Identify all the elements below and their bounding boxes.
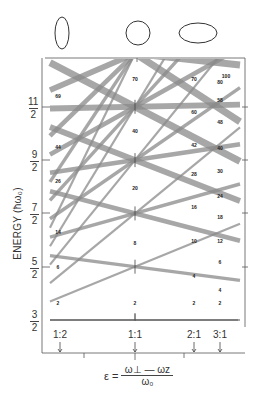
- formula-lhs: ε =: [104, 370, 118, 382]
- formula-denominator: ω₀: [141, 376, 153, 387]
- y-tick-7-2: 7 2: [30, 203, 39, 226]
- degeneracy-label: 14: [55, 229, 61, 235]
- degeneracy-label: 10: [191, 238, 197, 244]
- y-tick-numerator: 7: [32, 203, 38, 213]
- energy-level-diagram: [0, 0, 260, 400]
- energy-level-line: [50, 8, 240, 90]
- degeneracy-label: 44: [55, 144, 61, 150]
- degeneracy-label: 24: [217, 193, 223, 199]
- y-tick-3-2: 3 2: [30, 310, 39, 333]
- y-tick-9-2: 9 2: [30, 150, 39, 173]
- degeneracy-label: 2: [193, 300, 196, 306]
- y-tick-denominator: 2: [32, 270, 38, 280]
- degeneracy-label: 100: [222, 73, 230, 79]
- y-tick-11-2: 11 2: [28, 97, 38, 120]
- degeneracy-label: 4: [193, 273, 196, 279]
- degeneracy-label: 2: [134, 300, 137, 306]
- degeneracy-label: 70: [132, 76, 138, 82]
- y-tick-5-2: 5 2: [30, 257, 39, 280]
- degeneracy-label: 2: [57, 300, 60, 306]
- degeneracy-label: 28: [191, 171, 197, 177]
- ratio-arrow-icon: [218, 342, 222, 352]
- ratio-label-1-2: 1:2: [53, 329, 67, 340]
- ratio-label-3-1: 3:1: [213, 329, 227, 340]
- x-axis-formula: ε = ω⊥ — ωz ω₀: [104, 364, 173, 387]
- degeneracy-label: 80: [217, 79, 223, 85]
- oblate-shape-icon: [179, 23, 217, 43]
- prolate-shape-icon: [55, 17, 69, 49]
- y-tick-numerator: 5: [32, 257, 38, 267]
- degeneracy-label: 48: [217, 119, 223, 125]
- y-tick-numerator: 3: [32, 310, 38, 320]
- y-tick-denominator: 2: [32, 323, 38, 333]
- energy-level-lines: [50, 0, 240, 327]
- degeneracy-label: 60: [191, 109, 197, 115]
- formula-fraction: ω⊥ — ωz ω₀: [121, 364, 173, 387]
- degeneracy-label: 26: [55, 178, 61, 184]
- sphere-shape-icon: [126, 21, 150, 45]
- y-tick-numerator: 9: [32, 150, 38, 160]
- degeneracy-label: 69: [55, 93, 61, 99]
- degeneracy-label: 20: [132, 185, 138, 191]
- degeneracy-label: 58: [217, 97, 223, 103]
- degeneracy-label: 42: [191, 142, 197, 148]
- degeneracy-label: 30: [217, 168, 223, 174]
- degeneracy-label: 2: [219, 300, 222, 306]
- degeneracy-label: 8: [134, 240, 137, 246]
- degeneracy-label: 18: [217, 214, 223, 220]
- y-tick-denominator: 2: [30, 110, 36, 120]
- ratio-arrow-icon: [58, 342, 62, 352]
- degeneracy-label: 16: [191, 204, 197, 210]
- ratio-arrow-icon: [133, 342, 137, 352]
- degeneracy-label: 4: [219, 287, 222, 293]
- y-axis-label: ENERGY (ħω₀): [12, 179, 23, 269]
- y-tick-numerator: 11: [28, 97, 38, 107]
- ratio-arrow-icon: [192, 342, 196, 352]
- degeneracy-label: 12: [217, 238, 223, 244]
- degeneracy-label: 70: [191, 76, 197, 82]
- ratio-label-2-1: 2:1: [187, 329, 201, 340]
- y-tick-denominator: 2: [32, 163, 38, 173]
- degeneracy-label: 6: [57, 264, 60, 270]
- formula-numerator: ω⊥ — ωz: [125, 364, 170, 375]
- degeneracy-label: 40: [132, 128, 138, 134]
- y-tick-denominator: 2: [32, 216, 38, 226]
- degeneracy-label: 6: [219, 259, 222, 265]
- ratio-label-1-1: 1:1: [128, 329, 142, 340]
- degeneracy-label: 40: [217, 145, 223, 151]
